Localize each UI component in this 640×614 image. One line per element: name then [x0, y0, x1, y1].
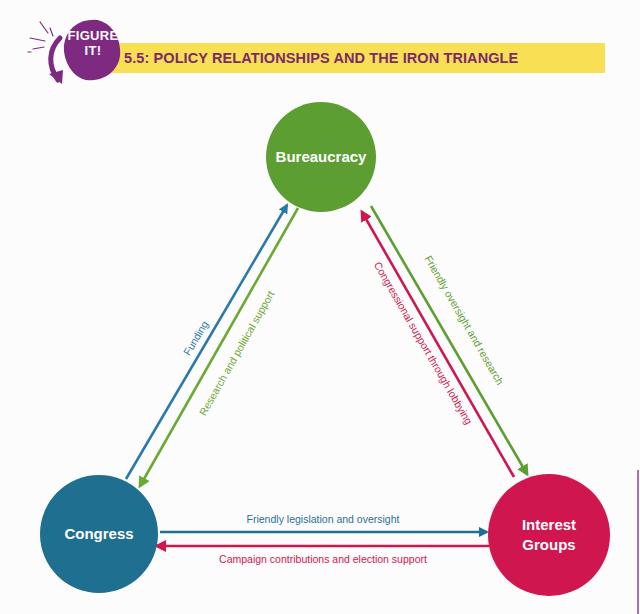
edge-label-funding: Funding [181, 318, 211, 357]
node-label-congress: Congress [64, 524, 133, 544]
node-label-interest-groups: Interest Groups [522, 515, 576, 555]
node-interest-groups: Interest Groups [488, 474, 610, 596]
edge-label-friendly-legislation-oversight: Friendly legislation and oversight [247, 513, 400, 525]
edge-congressional-support-lobbying: Congressional support through lobbying [362, 212, 514, 477]
edge-campaign-contributions: Campaign contributions and election supp… [157, 546, 489, 565]
node-bureaucracy: Bureaucracy [266, 102, 376, 212]
edge-research-political-support: Research and political support [140, 208, 298, 486]
edge-label-research-political-support: Research and political support [197, 289, 277, 418]
iron-triangle-diagram: 5.5: POLICY RELATIONSHIPS AND THE IRON T… [0, 0, 640, 614]
edge-friendly-legislation-oversight: Friendly legislation and oversight [160, 513, 487, 532]
edge-label-campaign-contributions: Campaign contributions and election supp… [219, 553, 427, 565]
node-label-bureaucracy: Bureaucracy [276, 147, 367, 167]
edge-label-congressional-support-lobbying: Congressional support through lobbying [372, 260, 475, 427]
node-congress: Congress [40, 475, 158, 593]
edge-friendly-oversight-research: Friendly oversight and research [371, 206, 527, 474]
edge-funding: Funding [126, 205, 287, 479]
page-edge-divider [637, 470, 639, 614]
